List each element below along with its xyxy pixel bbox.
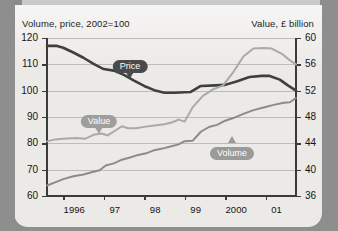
left-axis-tick [42,64,46,65]
x-axis-tick-label: 99 [174,204,218,215]
right-axis-tick [297,143,301,144]
series-line-price [47,46,296,93]
x-axis-tick-label: 2000 [214,204,258,215]
right-axis-tick [297,38,301,39]
plot-area: 60708090100110120 36404448525660 1996979… [47,38,296,196]
right-axis-tick [297,117,301,118]
callout-pointer [126,72,134,79]
chart-figure: Volume, price, 2002=100 Value, £ billion… [0,0,338,231]
right-axis-tick-label: 60 [305,33,335,43]
right-axis-tick [297,64,301,65]
right-axis-tick-label: 40 [305,165,335,175]
left-axis-tick-label: 60 [8,191,38,201]
series-callout-price: Price [113,55,148,73]
x-axis-tick-label: 1996 [52,204,96,215]
x-axis-tick [266,196,267,200]
x-axis-tick [63,196,64,200]
callout-label: Value [81,115,117,128]
left-axis-tick [42,143,46,144]
x-axis-tick [225,196,226,200]
left-axis-tick [42,117,46,118]
left-axis-tick-label: 100 [8,86,38,96]
x-axis-tick-label: 97 [93,204,137,215]
series-callout-volume: Volume [210,142,254,160]
left-axis-title: Volume, price, 2002=100 [22,18,130,29]
right-axis-tick [297,170,301,171]
right-axis-tick-label: 48 [305,112,335,122]
x-axis-tick-label: 98 [133,204,177,215]
right-axis-tick-label: 36 [305,191,335,201]
left-axis-tick-label: 80 [8,138,38,148]
left-axis-tick [42,91,46,92]
right-axis-tick [297,196,301,197]
x-axis-tick [104,196,105,200]
callout-label: Price [113,60,148,73]
left-axis-tick-label: 70 [8,165,38,175]
x-axis-tick [185,196,186,200]
right-axis-tick [297,91,301,92]
left-axis-tick [42,170,46,171]
right-axis-tick-label: 52 [305,86,335,96]
right-axis-tick-label: 44 [305,138,335,148]
right-axis-tick-label: 56 [305,59,335,69]
left-axis-tick-label: 110 [8,59,38,69]
x-axis-tick-label: 01 [255,204,299,215]
left-axis-tick-label: 90 [8,112,38,122]
callout-pointer [95,127,103,134]
left-axis-tick-label: 120 [8,33,38,43]
left-axis-tick [42,196,46,197]
callout-pointer [228,136,236,143]
series-callout-value: Value [81,110,117,128]
right-axis-title: Value, £ billion [251,18,314,29]
x-axis-tick [144,196,145,200]
callout-label: Volume [210,147,254,160]
left-axis-tick [42,38,46,39]
